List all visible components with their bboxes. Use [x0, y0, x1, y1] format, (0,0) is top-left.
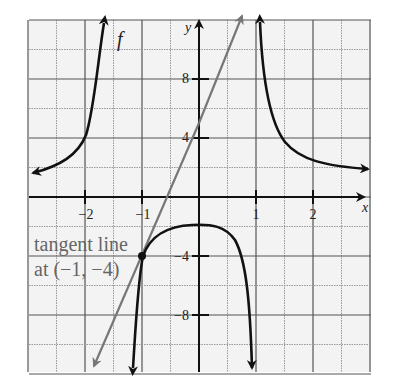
tangent-point [138, 252, 146, 260]
x-tick-label: 1 [253, 207, 260, 222]
annotation-tangent-line: tangent line [34, 233, 128, 256]
graph: −2 −1 1 2 8 4 −4 −8 x y f tangent line a… [0, 0, 394, 382]
x-tick-label: 2 [310, 207, 317, 222]
y-tick-label: −8 [174, 308, 189, 323]
annotation-point: at (−1, −4) [34, 258, 119, 281]
y-tick-label: 4 [182, 130, 189, 145]
x-tick-label: −1 [136, 207, 151, 222]
x-axis-label: x [361, 200, 369, 215]
y-tick-label: 8 [182, 71, 189, 86]
x-tick-label: −2 [79, 207, 94, 222]
y-axis-label: y [183, 20, 192, 35]
y-tick-label: −4 [174, 249, 189, 264]
